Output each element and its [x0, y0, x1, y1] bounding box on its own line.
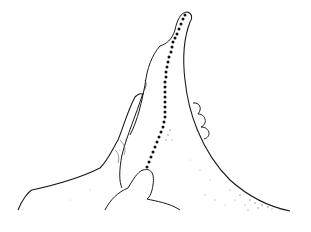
- dot: [164, 116, 167, 119]
- dot: [170, 51, 173, 54]
- dot: [166, 66, 169, 69]
- dot: [154, 146, 157, 149]
- toe-2: [198, 114, 205, 127]
- dot: [174, 37, 177, 40]
- dot: [164, 111, 167, 114]
- dot: [182, 18, 185, 21]
- dot: [172, 41, 175, 44]
- toe-3: [201, 127, 209, 139]
- dotted-line: [146, 14, 187, 169]
- dot: [152, 151, 155, 154]
- dot: [180, 23, 183, 26]
- shading: [69, 129, 280, 211]
- toe-1: [193, 103, 200, 114]
- dot: [178, 28, 181, 31]
- dot: [167, 61, 170, 64]
- dot: [148, 161, 151, 164]
- dot: [165, 71, 168, 74]
- illustration: [0, 0, 311, 232]
- dot: [150, 156, 153, 159]
- dot: [158, 136, 161, 139]
- dot: [164, 81, 167, 84]
- dot: [164, 96, 167, 99]
- dot: [165, 76, 168, 79]
- hand-foot-sketch: [0, 0, 311, 232]
- wrinkle: [115, 150, 119, 163]
- dot: [184, 14, 187, 17]
- dot: [162, 126, 165, 129]
- dot: [168, 56, 171, 59]
- dot: [156, 141, 159, 144]
- dot: [176, 33, 179, 36]
- foot-outline-left: [130, 12, 187, 135]
- hand-outline: [18, 94, 143, 210]
- dot: [171, 46, 174, 49]
- dot: [164, 86, 167, 89]
- dot: [146, 166, 149, 169]
- dot: [163, 121, 166, 124]
- dot: [164, 106, 167, 109]
- dot: [160, 131, 163, 134]
- dot: [164, 91, 167, 94]
- thumb-outline: [105, 170, 180, 210]
- dot: [164, 101, 167, 104]
